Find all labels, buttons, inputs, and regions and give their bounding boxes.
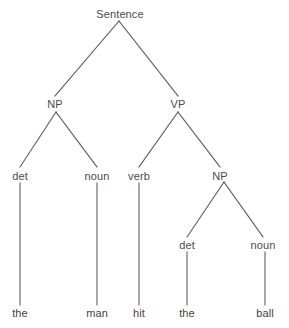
leaf-word-the-2: the [179, 308, 195, 319]
tree-edges-canvas [0, 0, 289, 328]
edge-sentence-to-vp [119, 21, 178, 96]
syntax-tree-figure: Sentence NP VP det noun verb NP det noun… [0, 0, 289, 328]
edge-np-to-noun [56, 112, 97, 167]
leaf-word-hit: hit [133, 308, 145, 319]
edge-np2-to-det [187, 182, 224, 237]
node-verb: verb [128, 171, 150, 182]
edge-vp-to-verb [139, 112, 178, 167]
node-np-subject: NP [47, 99, 62, 110]
node-det-1: det [12, 171, 28, 182]
node-vp: VP [171, 99, 186, 110]
edge-vp-to-np [178, 112, 220, 167]
node-sentence: Sentence [96, 9, 143, 20]
node-np-object: NP [212, 171, 227, 182]
edge-np-to-det [20, 112, 56, 167]
edge-np2-to-noun [224, 182, 263, 237]
leaf-word-ball: ball [256, 308, 274, 319]
node-noun-2: noun [251, 240, 276, 251]
leaf-word-man: man [86, 308, 108, 319]
node-noun-1: noun [85, 171, 110, 182]
edge-sentence-to-np [55, 21, 119, 96]
leaf-word-the-1: the [12, 308, 28, 319]
node-det-2: det [179, 240, 195, 251]
